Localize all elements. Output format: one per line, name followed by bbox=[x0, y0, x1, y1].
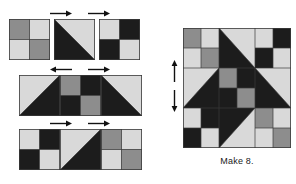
pressing-arrow-right bbox=[88, 66, 110, 73]
pressing-arrow-left bbox=[50, 66, 72, 73]
pressing-arrow-right bbox=[88, 120, 110, 127]
four-patch-medium-light bbox=[9, 19, 50, 60]
four-patch-medium-dark bbox=[60, 75, 101, 116]
half-square-triangle-light-dark bbox=[19, 75, 60, 116]
four-patch-light-dark bbox=[99, 19, 140, 60]
pressing-arrow-up bbox=[171, 60, 178, 82]
assembled-quilt-block bbox=[183, 28, 291, 148]
pressing-arrow-right bbox=[50, 10, 72, 17]
half-square-triangle-dark-light bbox=[54, 19, 95, 60]
half-square-triangle-dark-light-mirrored bbox=[101, 75, 142, 116]
four-patch-medium-light bbox=[101, 129, 142, 170]
half-square-triangle-light-dark bbox=[60, 129, 101, 170]
pressing-arrow-right bbox=[88, 10, 110, 17]
quilt-instruction-diagram: Make 8. bbox=[0, 0, 296, 184]
four-patch-light-dark bbox=[19, 129, 60, 170]
pressing-arrow-down bbox=[171, 90, 178, 112]
pressing-arrow-right bbox=[50, 120, 72, 127]
block-caption: Make 8. bbox=[183, 156, 291, 166]
